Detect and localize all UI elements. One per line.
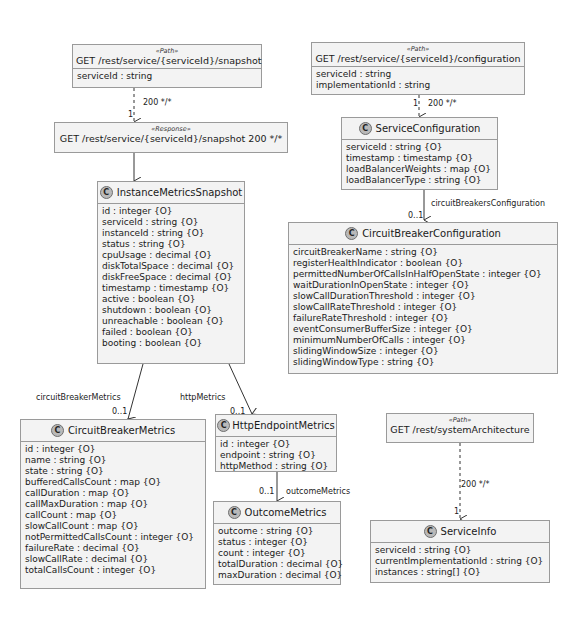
attribute: failed : boolean {O} [102, 327, 240, 338]
snapshot-path-params: serviceId : string [73, 69, 261, 85]
attribute: circuitBreakerName : string {O} [293, 247, 553, 258]
class-title: ServiceConfiguration [376, 123, 481, 134]
edge-mult-circuit-breaker-metrics: 0..1 [112, 407, 127, 417]
class-circuit-breaker-metrics[interactable]: C CircuitBreakerMetrics id : integer {O}… [20, 419, 206, 589]
class-header: C ServiceConfiguration [342, 118, 497, 140]
class-service-info[interactable]: C ServiceInfo serviceId : string {O} cur… [370, 520, 550, 583]
class-icon: C [228, 506, 241, 519]
attribute: slowCallRate : decimal {O} [25, 554, 201, 565]
attribute: diskTotalSpace : decimal {O} [102, 261, 240, 272]
system-architecture-path-box[interactable]: «Path» GET /rest/systemArchitecture [386, 413, 534, 443]
class-title: InstanceMetricsSnapshot [117, 187, 243, 198]
box-title: GET /rest/service/{serviceId}/configurat… [315, 53, 521, 64]
attribute: timestamp : timestamp {O} [102, 283, 240, 294]
attribute: id : integer {O} [25, 444, 201, 455]
attribute: active : boolean {O} [102, 294, 240, 305]
attribute: minimumNumberOfCalls : integer {O} [293, 335, 553, 346]
class-title: ServiceInfo [441, 526, 497, 537]
attribute: instances : string[] {O} [375, 567, 545, 578]
attribute: eventConsumerBufferSize : integer {O} [293, 324, 553, 335]
class-header: C HttpEndpointMetrics [216, 415, 336, 437]
snapshot-response-box[interactable]: «Response» GET /rest/service/{serviceId}… [54, 122, 288, 153]
configuration-path-box[interactable]: «Path» GET /rest/service/{serviceId}/con… [311, 42, 525, 95]
attribute: permittedNumberOfCallsInHalfOpenState : … [293, 269, 553, 280]
attribute: totalCallsCount : integer {O} [25, 565, 201, 576]
attribute: serviceId : string {O} [346, 142, 493, 153]
stereotype-label: «Path» [390, 416, 530, 424]
attribute: registerHealthIndicator : boolean {O} [293, 258, 553, 269]
attribute: diskFreeSpace : decimal {O} [102, 272, 240, 283]
class-outcome-metrics[interactable]: C OutcomeMetrics outcome : string {O} st… [213, 501, 341, 585]
param: implementationId : string [316, 80, 520, 91]
edge-mult-config-response: 1 [413, 99, 418, 109]
class-icon: C [424, 525, 437, 538]
system-architecture-path-header: «Path» GET /rest/systemArchitecture [387, 414, 533, 437]
edge-label-system-arch-response: 200 */* [461, 480, 490, 490]
snapshot-path-box[interactable]: «Path» GET /rest/service/{serviceId}/sna… [72, 44, 262, 88]
class-header: C CircuitBreakerMetrics [21, 420, 205, 442]
param: serviceId : string [77, 71, 257, 82]
attribute: timestamp : timestamp {O} [346, 153, 493, 164]
attribute: loadBalancerType : string {O} [346, 175, 493, 186]
attribute: id : integer {O} [102, 206, 240, 217]
attribute: shutdown : boolean {O} [102, 305, 240, 316]
class-attributes: outcome : string {O} status : integer {O… [214, 524, 340, 584]
edge-label-circuit-breaker-metrics: circuitBreakerMetrics [36, 393, 121, 403]
class-service-configuration[interactable]: C ServiceConfiguration serviceId : strin… [341, 117, 498, 190]
class-icon: C [359, 122, 372, 135]
stereotype-label: «Path» [76, 47, 258, 55]
edge-mult-circuit-breakers-configuration: 0..1 [408, 211, 423, 221]
edge-mult-snapshot-response: 1 [128, 110, 133, 120]
param: serviceId : string [316, 69, 520, 80]
class-attributes: serviceId : string {O} timestamp : times… [342, 140, 497, 189]
class-attributes: id : integer {O} name : string {O} state… [21, 442, 205, 579]
class-attributes: id : integer {O} serviceId : string {O} … [98, 204, 244, 352]
class-attributes: id : integer {O} endpoint : string {O} h… [216, 437, 336, 475]
edge-circuit-breaker-metrics [128, 364, 143, 419]
attribute: cpuUsage : decimal {O} [102, 250, 240, 261]
attribute: callDuration : map {O} [25, 488, 201, 499]
edge-mult-outcome-metrics: 0..1 [259, 487, 274, 497]
attribute: slidingWindowType : string {O} [293, 357, 553, 368]
class-title: HttpEndpointMetrics [232, 420, 335, 431]
edge-label-circuit-breakers-configuration: circuitBreakersConfiguration [431, 199, 545, 209]
snapshot-response-header: «Response» GET /rest/service/{serviceId}… [55, 123, 287, 146]
attribute: state : string {O} [25, 466, 201, 477]
attribute: id : integer {O} [220, 439, 332, 450]
class-icon: C [345, 227, 358, 240]
edge-label-outcome-metrics: outcomeMetrics [286, 487, 350, 497]
box-title: GET /rest/service/{serviceId}/snapshot 2… [58, 133, 284, 144]
attribute: serviceId : string {O} [102, 217, 240, 228]
attribute: failureRate : decimal {O} [25, 543, 201, 554]
attribute: maxDuration : decimal {O} [218, 570, 336, 581]
attribute: loadBalancerWeights : map {O} [346, 164, 493, 175]
edge-label-config-response: 200 */* [428, 99, 457, 109]
stereotype-label: «Path» [315, 45, 521, 53]
attribute: name : string {O} [25, 455, 201, 466]
class-circuit-breaker-configuration[interactable]: C CircuitBreakerConfiguration circuitBre… [288, 222, 558, 374]
attribute: httpMethod : string {O} [220, 461, 332, 472]
class-instance-metrics-snapshot[interactable]: C InstanceMetricsSnapshot id : integer {… [97, 181, 245, 364]
class-icon: C [217, 419, 230, 432]
class-header: C InstanceMetricsSnapshot [98, 182, 244, 204]
edge-label-snapshot-response: 200 */* [143, 98, 172, 108]
class-icon: C [100, 186, 113, 199]
class-title: CircuitBreakerConfiguration [362, 228, 501, 239]
attribute: slowCallRateThreshold : integer {O} [293, 302, 553, 313]
edge-label-http-metrics: httpMetrics [180, 393, 225, 403]
attribute: unreachable : boolean {O} [102, 316, 240, 327]
class-http-endpoint-metrics[interactable]: C HttpEndpointMetrics id : integer {O} e… [215, 414, 337, 472]
attribute: bufferedCallsCount : map {O} [25, 477, 201, 488]
attribute: instanceId : string {O} [102, 228, 240, 239]
attribute: count : integer {O} [218, 548, 336, 559]
attribute: failureRateThreshold : integer {O} [293, 313, 553, 324]
class-header: C ServiceInfo [371, 521, 549, 543]
stereotype-label: «Response» [58, 125, 284, 133]
class-attributes: circuitBreakerName : string {O} register… [289, 245, 557, 371]
configuration-path-params: serviceId : string implementationId : st… [312, 67, 524, 94]
attribute: waitDurationInOpenState : integer {O} [293, 280, 553, 291]
attribute: callMaxDuration : map {O} [25, 499, 201, 510]
box-title: GET /rest/service/{serviceId}/snapshot [76, 55, 258, 66]
edge-mult-system-arch-response: 1 [454, 507, 459, 517]
attribute: totalDuration : decimal {O} [218, 559, 336, 570]
